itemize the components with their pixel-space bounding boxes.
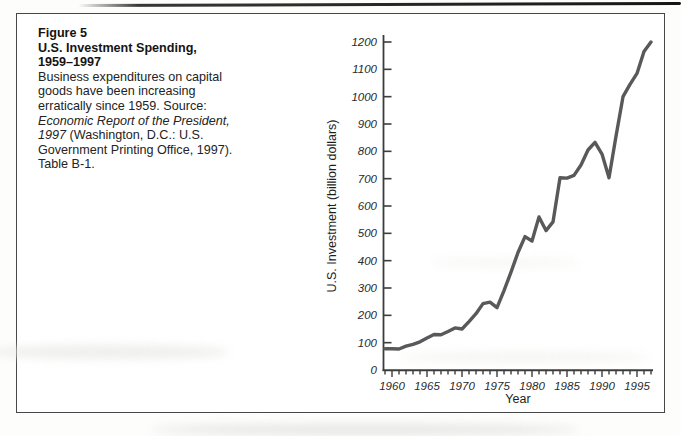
figure-title: U.S. Investment Spending,	[38, 41, 243, 56]
figure-caption-block: Figure 5 U.S. Investment Spending, 1959–…	[38, 26, 243, 172]
figure-caption: Business expenditures on capital goods h…	[38, 70, 243, 172]
figure-title-years: 1959–1997	[38, 55, 243, 70]
caption-text-post: (Washington, D.C.: U.S. Government Print…	[38, 128, 232, 171]
figure-label: Figure 5	[38, 26, 243, 41]
caption-text-pre: Business expenditures on capital goods h…	[38, 70, 222, 113]
scan-smudge	[0, 345, 230, 359]
scan-smudge	[430, 258, 580, 267]
scan-smudge	[400, 352, 650, 362]
scan-smudge	[150, 424, 580, 435]
figure-5-panel: Figure 5 U.S. Investment Spending, 1959–…	[0, 0, 681, 436]
scan-artifact-line	[78, 2, 681, 6]
